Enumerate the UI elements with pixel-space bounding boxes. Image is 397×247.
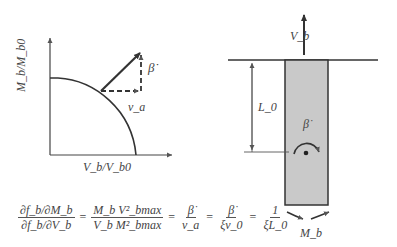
va-label: v_a xyxy=(128,100,145,115)
beta-dot-text: β̇ xyxy=(148,60,154,75)
term-5-denominator: ξL_0 xyxy=(261,218,289,232)
equation-term-3: β̇ v_a xyxy=(180,203,201,232)
mb-label: M_b xyxy=(300,226,322,241)
term-1-numerator: ∂f_b/∂M_b xyxy=(18,203,75,218)
y-axis-label: M_b/M_b0 xyxy=(14,39,29,92)
mb-text: M_b xyxy=(300,226,322,240)
flow-vector-arrow xyxy=(101,53,140,91)
l0-label: L_0 xyxy=(258,100,277,115)
equation-term-2: M_b V²_bmax V_b M²_bmax xyxy=(91,203,163,232)
term-5-numerator: 1 xyxy=(270,203,280,218)
l0-text: L_0 xyxy=(258,100,277,114)
rotation-label: β̇ xyxy=(303,117,309,132)
moment-arrow-left xyxy=(287,212,303,219)
term-4-denominator: ξv_0 xyxy=(218,218,244,232)
term-4-numerator: β̇ xyxy=(226,203,236,218)
yield-surface-curve xyxy=(50,78,136,155)
equals-sign: = xyxy=(167,210,176,225)
flow-rule-equation: ∂f_b/∂M_b ∂f_b/∂V_b = M_b V²_bmax V_b M²… xyxy=(18,203,289,232)
equation-term-5: 1 ξL_0 xyxy=(261,203,289,232)
rotation-center-dot xyxy=(304,151,309,156)
equation-term-1: ∂f_b/∂M_b ∂f_b/∂V_b xyxy=(18,203,75,232)
term-3-numerator: β̇ xyxy=(186,203,196,218)
vb-text: V_b xyxy=(290,29,309,43)
vb-label: V_b xyxy=(290,29,309,44)
moment-arrow-right xyxy=(311,212,329,219)
y-axis-label-text: M_b/M_b0 xyxy=(14,39,28,92)
beta-dot-label: β̇ xyxy=(148,60,154,76)
rotation-text: β̇ xyxy=(303,117,309,131)
x-axis-label-text: V_b/V_b0 xyxy=(83,160,131,174)
term-1-denominator: ∂f_b/∂V_b xyxy=(19,218,73,232)
left-plot xyxy=(50,38,172,155)
equation-term-4: β̇ ξv_0 xyxy=(218,203,244,232)
term-2-denominator: V_b M²_bmax xyxy=(91,218,163,232)
term-2-numerator: M_b V²_bmax xyxy=(91,203,163,218)
va-text: v_a xyxy=(128,100,145,114)
equals-sign: = xyxy=(205,210,214,225)
x-axis-label: V_b/V_b0 xyxy=(83,160,131,175)
pile-body xyxy=(285,60,328,205)
equals-sign: = xyxy=(249,210,258,225)
term-3-denominator: v_a xyxy=(180,218,201,232)
equals-sign: = xyxy=(79,210,88,225)
